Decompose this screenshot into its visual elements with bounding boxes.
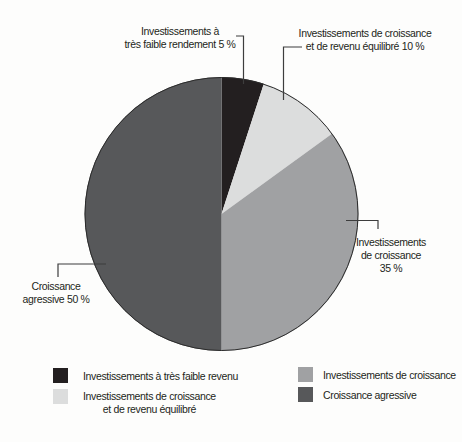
callout-growth-line2: de croissance <box>331 249 451 262</box>
callout-growth-line3: 35 % <box>331 262 451 275</box>
callout-aggressive-line1: Croissance <box>0 280 112 293</box>
legend-swatch-aggressive <box>298 387 313 402</box>
callout-aggressive: Croissance agressive 50 % <box>0 280 112 306</box>
legend-label-low-yield: Investissements à très faible revenu <box>83 370 238 383</box>
legend-swatch-low-yield <box>53 368 68 383</box>
legend-label-balanced-line1: Investissements de croissance <box>83 390 216 402</box>
callout-balanced-line1: Investissements de croissance <box>285 27 445 40</box>
legend-label-aggressive: Croissance agressive <box>323 389 416 402</box>
callout-balanced-line2: et de revenu équilibré 10 % <box>285 40 445 53</box>
callout-low-yield: Investissements à très faible rendement … <box>110 25 250 51</box>
callout-line-balanced <box>284 47 303 100</box>
legend-label-balanced: Investissements de croissance et de reve… <box>83 390 216 416</box>
legend-swatch-growth <box>298 367 313 382</box>
callout-low-yield-line1: Investissements à <box>110 25 250 38</box>
callout-aggressive-line2: agressive 50 % <box>0 293 112 306</box>
legend-label-growth: Investissements de croissance <box>323 369 456 382</box>
legend-swatch-balanced <box>53 389 68 404</box>
callout-low-yield-line2: très faible rendement 5 % <box>110 38 250 51</box>
pie-slice-4 <box>85 77 222 351</box>
callout-balanced: Investissements de croissance et de reve… <box>285 27 445 53</box>
callout-growth-line1: Investissements <box>331 236 451 249</box>
pie-chart-figure: Investissements à très faible rendement … <box>0 0 462 442</box>
pie-slices <box>85 77 359 351</box>
legend-label-balanced-line2: et de revenu équilibré <box>103 403 196 415</box>
callout-growth: Investissements de croissance 35 % <box>331 236 451 275</box>
